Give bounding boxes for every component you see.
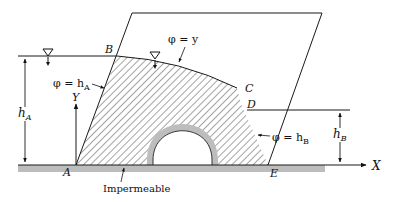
phi-y-leader bbox=[179, 47, 185, 62]
y-axis-label: Y bbox=[72, 91, 81, 104]
phi-hB-label: φ = hB bbox=[272, 131, 309, 146]
point-B-label: B bbox=[104, 43, 113, 56]
phi-y-label: φ = y bbox=[168, 33, 199, 46]
impermeable-label: Impermeable bbox=[103, 183, 170, 194]
seepage-dam-diagram: X Y hA hB B C D A E φ = y φ = hA φ = hB … bbox=[0, 0, 403, 202]
phi-hA-leader bbox=[92, 84, 104, 88]
point-E-label: E bbox=[269, 167, 278, 180]
x-axis-label: X bbox=[371, 159, 381, 173]
point-C-label: C bbox=[245, 82, 254, 95]
water-level-icon-upstream bbox=[43, 49, 53, 66]
point-D-label: D bbox=[246, 98, 256, 111]
saturated-region bbox=[76, 56, 268, 165]
point-A-label: A bbox=[62, 166, 71, 179]
phi-hA-label: φ = hA bbox=[53, 77, 90, 92]
phi-hB-leader bbox=[258, 135, 270, 136]
